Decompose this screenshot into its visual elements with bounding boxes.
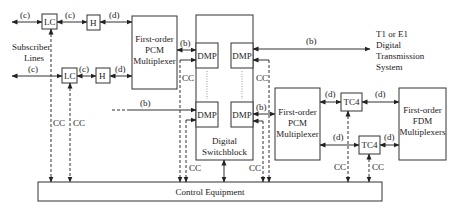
svg-text:Transmission: Transmission [376, 51, 425, 61]
svg-text:CC: CC [256, 73, 268, 83]
lc-label: LC [64, 71, 76, 81]
dmp-label: DMP [232, 110, 252, 120]
switchblock-label-1: Digital [212, 136, 237, 146]
h-label: H [90, 18, 97, 28]
link-label-b: (b) [306, 36, 317, 46]
svg-text:First-order: First-order [403, 105, 442, 115]
subscriber-path-bottom: (c) LC (c) H (d) [12, 64, 132, 83]
subscriber-lines-label-1: Subscriber [12, 42, 51, 52]
control-equipment-label: Control Equipment [175, 187, 245, 197]
pcm-mux-label-2: PCM [145, 45, 164, 55]
pcm-mux-label-3: Multiplexer [133, 56, 176, 66]
svg-text:CC: CC [189, 163, 201, 173]
dmp-label: DMP [197, 51, 217, 61]
link-label-d: (d) [325, 89, 336, 99]
link-label-d: (d) [375, 89, 386, 99]
h-label: H [99, 71, 106, 81]
tc4-label: TC4 [361, 140, 378, 150]
svg-text:CC: CC [73, 118, 85, 128]
link-label-c: (c) [79, 64, 89, 74]
link-label-c: (c) [65, 10, 75, 20]
link-label-b: (b) [180, 38, 191, 48]
fdm-multiplexers: First-order FDM Multiplexers [399, 88, 446, 160]
svg-text:System: System [376, 62, 403, 72]
transmission-system-label: T1 or E1 Digital Transmission System [376, 29, 425, 72]
link-label-d: (d) [333, 132, 344, 142]
pcm-mux-label-1: First-order [135, 34, 174, 44]
svg-text:T1 or E1: T1 or E1 [376, 29, 408, 39]
svg-text:Multiplexer: Multiplexer [276, 129, 319, 139]
tc4-label: TC4 [343, 97, 360, 107]
link-label-c: (c) [28, 64, 38, 74]
svg-text:FDM: FDM [413, 116, 433, 126]
pcm-multiplexer-2: First-order PCM Multiplexer [275, 88, 320, 160]
link-label-c: (c) [20, 10, 30, 20]
exchange-diagram: (c) LC (c) H (d) Subscriber Lines (c) LC… [0, 0, 459, 210]
svg-text:PCM: PCM [288, 118, 307, 128]
svg-text:CC: CC [53, 118, 65, 128]
svg-text:CC: CC [182, 73, 194, 83]
link-label-b: (b) [140, 98, 151, 108]
subscriber-path-top: (c) LC (c) H (d) [12, 10, 132, 30]
control-equipment: Control Equipment [38, 182, 382, 201]
link-label-d: (d) [109, 10, 120, 20]
dmp-label: DMP [197, 110, 217, 120]
svg-text:Digital: Digital [376, 40, 401, 50]
svg-text:First-order: First-order [278, 107, 317, 117]
switchblock-label-2: Switchblock [202, 147, 247, 157]
digital-switchblock: DMP DMP DMP DMP Digital Switchblock [196, 15, 253, 160]
dmp-label: DMP [232, 51, 252, 61]
svg-text:CC: CC [249, 163, 261, 173]
link-label-d: (d) [384, 132, 395, 142]
svg-text:CC: CC [372, 162, 384, 172]
link-label-d: (d) [115, 64, 126, 74]
svg-text:Multiplexers: Multiplexers [400, 127, 446, 137]
svg-text:CC: CC [334, 162, 346, 172]
lc-label: LC [44, 17, 56, 27]
pcm-multiplexer-1: First-order PCM Multiplexer [132, 16, 177, 89]
subscriber-lines-label-2: Lines [24, 53, 44, 63]
link-label-b: (b) [256, 102, 267, 112]
